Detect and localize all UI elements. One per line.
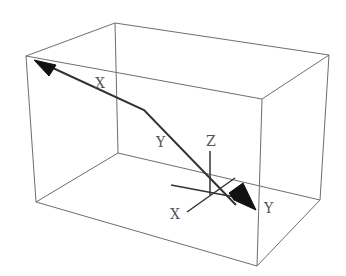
local-axes	[171, 151, 240, 212]
box-edge-bottom-front	[36, 202, 257, 266]
box-edge-vertical-back-left	[115, 23, 118, 153]
box-edge-bottom-back	[118, 153, 320, 200]
label-axis-z: Z	[206, 133, 216, 149]
diagram-canvas: X Y Z X Y	[0, 0, 346, 276]
box-edge-top-right	[262, 55, 329, 99]
label-axis-x: X	[170, 206, 180, 222]
axis-horizontal-line	[171, 185, 240, 198]
box-edge-vertical-front-right	[257, 99, 262, 266]
box-edge-top-left	[26, 23, 115, 56]
arrowhead-end-icon	[229, 183, 256, 210]
box-edge-vertical-front-left	[26, 56, 36, 202]
box-edge-bottom-left	[36, 153, 118, 202]
box-edge-top-front	[26, 56, 262, 99]
box-edge-top-back	[115, 23, 329, 55]
arrowhead-start-icon	[34, 60, 56, 76]
box-edge-vertical-back-right	[320, 55, 329, 200]
label-path-start-x: X	[95, 75, 105, 91]
label-path-end-y: Y	[263, 200, 274, 216]
label-path-mid-y: Y	[155, 134, 166, 150]
